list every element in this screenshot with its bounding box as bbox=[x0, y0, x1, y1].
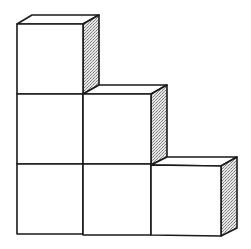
middle-right-cube-front-face bbox=[83, 94, 151, 164]
bottom-row-cubes bbox=[17, 157, 237, 236]
bottom-cube-side-face bbox=[221, 157, 237, 236]
bottom-right-cube-front-face bbox=[151, 165, 221, 236]
top-cube-front-face bbox=[17, 24, 83, 94]
bottom-middle-cube-front-face bbox=[83, 164, 151, 235]
middle-left-cube-front-face bbox=[17, 94, 83, 164]
top-cube bbox=[17, 15, 99, 94]
bottom-left-cube-front-face bbox=[17, 164, 83, 234]
middle-cube-side-face bbox=[151, 85, 167, 165]
cube-staircase-diagram bbox=[0, 0, 251, 249]
middle-row-cubes bbox=[17, 85, 167, 165]
top-cube-side-face bbox=[83, 15, 99, 94]
